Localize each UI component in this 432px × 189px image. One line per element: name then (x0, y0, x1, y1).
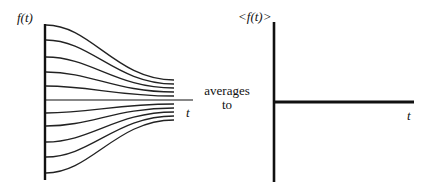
right-plot (274, 22, 414, 182)
curve (46, 120, 174, 173)
right-x-axis-label: t (407, 109, 411, 122)
to-text: to (202, 98, 252, 112)
averages-to-text: averages to (202, 84, 252, 113)
left-y-axis-label: f(t) (17, 11, 33, 24)
left-x-axis-label: t (186, 106, 190, 119)
left-plot (45, 24, 193, 180)
converging-curves (46, 25, 174, 173)
right-y-axis-label: <f(t)> (238, 10, 271, 23)
averages-text: averages (202, 84, 252, 98)
curve (46, 25, 174, 80)
